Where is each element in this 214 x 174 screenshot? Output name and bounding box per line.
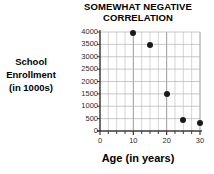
- data-point: [197, 120, 203, 126]
- y-tick-label: 2000: [64, 78, 98, 86]
- x-axis-title: Age (in years): [62, 152, 214, 164]
- y-tick-label: 3500: [64, 40, 98, 48]
- y-tick-label: 500: [64, 115, 98, 123]
- x-tick-label: 0: [90, 136, 110, 145]
- y-tick-label: 4000: [64, 28, 98, 36]
- x-tick-label: 30: [190, 136, 210, 145]
- y-tick-label: 0: [64, 127, 98, 135]
- data-point: [180, 117, 186, 123]
- scatter-chart-figure: SOMEWHAT NEGATIVE CORRELATION School Enr…: [0, 0, 214, 174]
- y-tick-label: 1000: [64, 102, 98, 110]
- y-tick-label: 2500: [64, 65, 98, 73]
- data-point: [147, 42, 153, 48]
- data-point: [164, 91, 170, 97]
- x-tick-label: 20: [157, 136, 177, 145]
- x-tick-label-group: 0102030: [0, 136, 214, 148]
- y-tick-label: 3000: [64, 53, 98, 61]
- x-tick-label: 10: [123, 136, 143, 145]
- y-tick-label: 1500: [64, 90, 98, 98]
